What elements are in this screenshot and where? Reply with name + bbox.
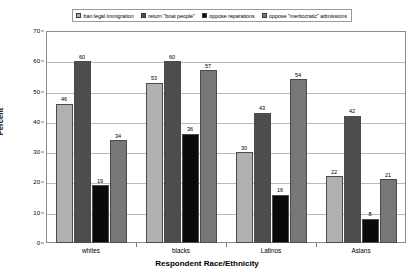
y-tick-label: 0 [37,240,40,247]
bar-value-label: 30 [241,145,247,151]
bar-value-label: 57 [205,63,211,69]
y-tick-label: 70 [33,28,40,35]
legend-item-return-boat-people: return "boat people" [141,13,195,19]
bar-slot: 60 [74,31,91,243]
bar-slot: 46 [56,31,73,243]
bar-value-label: 42 [349,108,355,114]
bar[interactable] [56,104,73,243]
y-tick-mark [41,121,44,122]
y-tick-label: 40 [33,118,40,125]
bar-group: 53603657 [136,31,226,243]
bar-slot: 19 [92,31,109,243]
y-axis: 010203040506070 [18,25,44,249]
y-tick-mark [41,61,44,62]
bar-slot: 8 [362,31,379,243]
bar[interactable] [164,61,181,243]
bar-group: 2242821 [316,31,406,243]
x-axis: whitesblacksLatinosAsians [46,247,406,259]
x-tick-label: blacks [172,247,190,255]
x-tick-label: Asians [351,247,370,255]
y-tick-label: 60 [33,58,40,65]
bar-slot: 42 [344,31,361,243]
bar-group: 30431654 [226,31,316,243]
legend-label-series-4: oppose "meritocratic" admissions [269,13,347,19]
y-tick-mark [41,243,44,244]
x-tick-mark [136,243,137,247]
bar-slot: 60 [164,31,181,243]
bar-value-label: 43 [259,105,265,111]
x-tick-label: Latinos [261,247,282,255]
bar-value-label: 19 [97,178,103,184]
bar-value-label: 34 [115,133,121,139]
bar-slot: 16 [272,31,289,243]
legend-swatch-series-1 [76,13,81,18]
bar[interactable] [110,140,127,243]
legend-swatch-series-4 [262,13,267,18]
x-tick-mark [316,243,317,247]
bar[interactable] [236,152,253,243]
bar-value-label: 54 [295,72,301,78]
bar-slot: 30 [236,31,253,243]
bar-slot: 36 [182,31,199,243]
bar[interactable] [290,79,307,243]
bar-value-label: 60 [79,54,85,60]
bar[interactable] [146,83,163,244]
y-tick-mark [41,152,44,153]
bar-value-label: 22 [331,169,337,175]
bar-value-label: 8 [368,211,371,217]
bar-slot: 57 [200,31,217,243]
legend-label-series-2: return "boat people" [148,13,195,19]
legend-swatch-series-2 [141,13,146,18]
y-tick-label: 20 [33,179,40,186]
bar-value-label: 16 [277,187,283,193]
bar[interactable] [200,70,217,243]
legend-label-series-3: oppose reparations [209,13,254,19]
chart-legend: ban legal immigration return "boat peopl… [72,9,352,22]
bar[interactable] [380,179,397,243]
x-axis-title: Respondent Race/Ethnicity [0,259,414,268]
legend-swatch-series-3 [202,13,207,18]
bar-slot: 53 [146,31,163,243]
bar-value-label: 21 [385,172,391,178]
bar-group: 46601934 [46,31,136,243]
y-axis-title: Percent [0,108,5,136]
bar[interactable] [362,219,379,243]
bar-value-label: 53 [151,75,157,81]
bar[interactable] [182,134,199,243]
bar-value-label: 60 [169,54,175,60]
y-tick-label: 30 [33,149,40,156]
y-tick-label: 10 [33,209,40,216]
bar[interactable] [344,116,361,243]
bar-value-label: 46 [61,96,67,102]
bar[interactable] [326,176,343,243]
bar-value-label: 36 [187,126,193,132]
bar[interactable] [254,113,271,243]
bar[interactable] [92,185,109,243]
bar[interactable] [74,61,91,243]
bar-slot: 21 [380,31,397,243]
y-tick-mark [41,91,44,92]
bar-slot: 34 [110,31,127,243]
bar-slot: 22 [326,31,343,243]
y-tick-label: 50 [33,88,40,95]
x-tick-label: whites [82,247,100,255]
legend-label-series-1: ban legal immigration [84,13,134,19]
bar-slot: 43 [254,31,271,243]
legend-item-ban-legal-immigration: ban legal immigration [76,13,134,19]
x-tick-mark [226,243,227,247]
bars-layer: 4660193453603657304316542242821 [46,31,406,243]
bar-slot: 54 [290,31,307,243]
y-tick-mark [41,212,44,213]
y-tick-mark [41,182,44,183]
y-tick-mark [41,31,44,32]
legend-item-oppose-meritocratic-admissions: oppose "meritocratic" admissions [262,13,347,19]
bar[interactable] [272,195,289,243]
legend-item-oppose-reparations: oppose reparations [202,13,255,19]
